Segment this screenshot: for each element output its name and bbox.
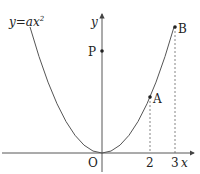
origin-label: O [88, 156, 98, 170]
point-b-label: B [178, 22, 187, 36]
point-p-dot [100, 49, 104, 53]
tick-2-label: 2 [146, 156, 154, 170]
point-a-label: A [152, 92, 162, 106]
point-p-label: P [88, 45, 96, 59]
equation-label: y=ax2 [8, 15, 45, 29]
point-b-dot [173, 25, 177, 29]
tick-3-label: 3 [171, 156, 179, 170]
point-a-dot [148, 95, 152, 99]
y-axis-label: y [90, 15, 98, 29]
x-axis-label: x [181, 156, 188, 170]
parabola-diagram: y=ax2 y x O P A B 2 3 [0, 0, 200, 174]
